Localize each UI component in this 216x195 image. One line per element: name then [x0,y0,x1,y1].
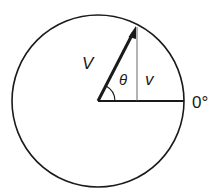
arrow-head-icon [129,26,137,39]
angle-label: θ [119,71,127,88]
phasor-label: V [82,54,95,73]
angle-arc [106,86,115,101]
phasor-diagram: V θ v 0° [0,0,216,195]
phasor-arrow-shaft [98,33,133,101]
vertical-component-label: v [145,70,155,89]
reference-angle-label: 0° [192,93,208,112]
